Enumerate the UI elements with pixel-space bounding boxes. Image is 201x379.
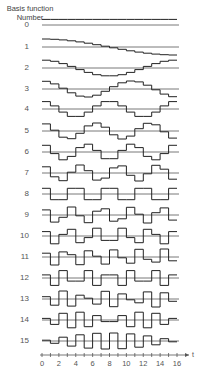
- axis-arrow-icon: [185, 353, 189, 357]
- axis-tick-label: 10: [122, 359, 130, 368]
- axis-tick-label: 8: [107, 359, 111, 368]
- axis-tick-label: 2: [57, 359, 61, 368]
- axis-tick-label: 4: [74, 359, 78, 368]
- axis-tick-label: 12: [139, 359, 147, 368]
- axis-tick-label: 14: [156, 359, 164, 368]
- axis-tick-label: 6: [91, 359, 95, 368]
- axis-tick-label: 16: [173, 359, 181, 368]
- axis-label: t: [192, 351, 194, 358]
- basis-function-plot: 0246810121416t: [0, 0, 201, 379]
- axis-tick-label: 0: [40, 359, 44, 368]
